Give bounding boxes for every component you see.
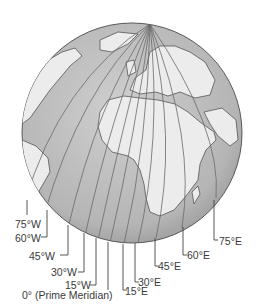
label-45w: 45°W: [29, 250, 55, 262]
label-45e: 45°E: [158, 260, 181, 272]
label-75w: 75°W: [15, 218, 41, 230]
label-60w: 60°W: [15, 232, 41, 244]
label-prime-meridian: 0° (Prime Meridian): [22, 289, 113, 301]
label-60e: 60°E: [187, 249, 210, 261]
label-75e: 75°E: [219, 235, 242, 247]
label-30w: 30°W: [51, 266, 77, 278]
label-30e: 30°E: [138, 276, 161, 288]
